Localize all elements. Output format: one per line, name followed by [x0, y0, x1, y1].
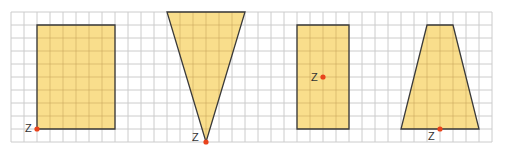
point-z-label: Z	[192, 131, 199, 143]
point-z-marker	[34, 126, 39, 131]
point-z-marker	[437, 126, 442, 131]
point-z-label: Z	[428, 130, 435, 142]
point-z-marker	[203, 139, 208, 144]
grid-figure: ZZZZ	[0, 0, 507, 151]
point-z-label: Z	[25, 122, 32, 134]
point-z-label: Z	[311, 71, 318, 83]
point-z-marker	[320, 74, 325, 79]
